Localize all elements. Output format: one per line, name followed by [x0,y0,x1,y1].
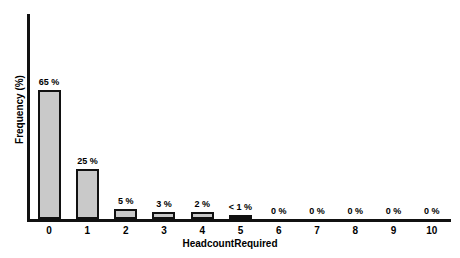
x-tick-label: 2 [107,224,145,238]
bar-group[interactable]: 5 % [114,196,137,219]
bar-value-label: 65 % [39,77,60,87]
bar-slot: 0 % [413,14,451,219]
x-tick-label: 8 [336,224,374,238]
x-axis-tick-labels: 012345678910 [30,224,451,238]
bar-group[interactable]: 65 % [38,77,61,219]
x-tick-label: 4 [183,224,221,238]
bar-slot: 0 % [336,14,374,219]
bar-group[interactable]: 0 % [344,206,367,219]
bar-value-label: 25 % [77,156,98,166]
x-tick-label: 7 [298,224,336,238]
plot-area: 65 %25 %5 %3 %2 %< 1 %0 %0 %0 %0 %0 % [30,14,451,219]
bar-group[interactable]: 0 % [382,206,405,219]
bar-group[interactable]: 25 % [76,156,99,219]
bar-slot: 25 % [68,14,106,219]
bar-slot: 2 % [183,14,221,219]
bar-rect[interactable] [114,209,137,219]
x-tick-label: 5 [221,224,259,238]
bar-value-label: 0 % [424,206,440,216]
bar-slot: < 1 % [221,14,259,219]
bar-value-label: < 1 % [229,202,252,212]
bar-value-label: 0 % [348,206,364,216]
bar-value-label: 2 % [194,199,210,209]
bar-rect[interactable] [76,169,99,219]
x-tick-label: 0 [30,224,68,238]
bar-slot: 5 % [107,14,145,219]
bar-value-label: 0 % [271,206,287,216]
bar-rect[interactable] [38,90,61,219]
bar-value-label: 3 % [156,199,172,209]
bar-group[interactable]: 0 % [306,206,329,219]
bar-rect[interactable] [229,215,252,219]
bar-slot: 3 % [145,14,183,219]
x-tick-label: 10 [413,224,451,238]
x-tick-label: 1 [68,224,106,238]
bar-group[interactable]: 0 % [420,206,443,219]
bar-value-label: 5 % [118,196,134,206]
x-tick-label: 6 [260,224,298,238]
bar-group[interactable]: < 1 % [229,202,252,219]
x-axis-line [27,219,451,222]
bar-chart: Frequency (%) 65 %25 %5 %3 %2 %< 1 %0 %0… [0,0,460,258]
bar-rect[interactable] [152,212,175,219]
bar-slot: 0 % [260,14,298,219]
x-tick-label: 9 [374,224,412,238]
bar-group[interactable]: 0 % [267,206,290,219]
y-axis-label: Frequency (%) [14,50,25,170]
bar-slot: 0 % [298,14,336,219]
x-axis-label: HeadcountRequired [0,238,460,249]
bar-group[interactable]: 3 % [152,199,175,219]
bar-group[interactable]: 2 % [191,199,214,219]
bar-slot: 0 % [374,14,412,219]
bar-rect[interactable] [191,212,214,219]
bar-value-label: 0 % [386,206,402,216]
bar-value-label: 0 % [309,206,325,216]
x-tick-label: 3 [145,224,183,238]
bar-slot: 65 % [30,14,68,219]
